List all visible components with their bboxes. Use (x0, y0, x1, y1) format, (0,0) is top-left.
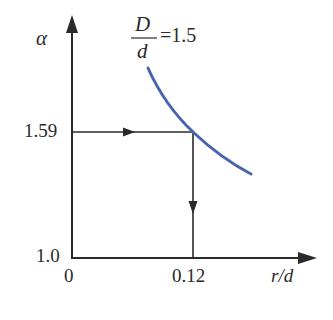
horizontal-guide-line (72, 128, 193, 137)
curve-d-ratio-1-5 (148, 68, 251, 174)
annotation-numerator: D (135, 12, 150, 37)
x-axis-arrow-icon (298, 252, 317, 264)
x-axis (71, 252, 317, 264)
right-arrow-icon (123, 128, 135, 137)
x-axis-label: r/d (271, 265, 293, 287)
y-axis-arrow-icon (66, 15, 78, 33)
y-axis (66, 15, 78, 259)
stress-concentration-chart: α 1.59 1.0 0 0.12 r/d D d =1.5 (0, 0, 333, 320)
y-axis-label: α (36, 26, 47, 51)
down-arrow-icon (189, 201, 198, 214)
x-tick-0: 0 (64, 265, 74, 287)
vertical-guide-line (189, 132, 198, 258)
x-tick-0-12: 0.12 (172, 265, 205, 287)
annotation-value: =1.5 (160, 24, 196, 47)
y-tick-1-59: 1.59 (24, 120, 57, 142)
annotation-denominator: d (137, 39, 148, 64)
y-tick-1-0: 1.0 (36, 245, 60, 267)
